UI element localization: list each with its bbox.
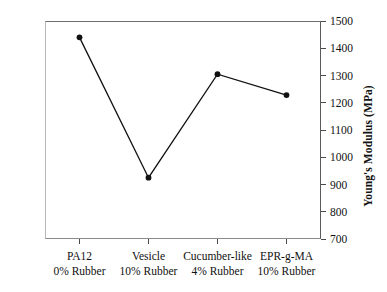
x-tick-label: PA120% Rubber	[53, 249, 105, 279]
x-tick-label: Cucumber-like4% Rubber	[183, 249, 252, 279]
y-tick-label: 900	[330, 177, 347, 193]
x-tick-label: Vesicle10% Rubber	[120, 249, 178, 279]
data-series-line	[45, 21, 321, 239]
y-tick-mark	[321, 75, 326, 76]
x-tick-mark	[217, 239, 218, 244]
y-tick-label: 1400	[330, 40, 353, 56]
y-tick-label: 1500	[330, 13, 353, 29]
y-tick-mark	[321, 102, 326, 103]
series-markers	[77, 34, 290, 180]
x-tick-mark	[79, 239, 80, 244]
x-tick-label-line1: Cucumber-like	[183, 250, 252, 262]
x-tick-mark	[148, 239, 149, 244]
y-tick-mark	[321, 184, 326, 185]
chart-figure: 150014001300120011001000900800700 Young'…	[0, 0, 387, 292]
y-tick-label: 800	[330, 204, 347, 220]
data-point-marker	[215, 71, 221, 77]
y-tick-mark	[321, 21, 326, 22]
data-point-marker	[146, 175, 152, 181]
x-tick-label-line2: 4% Rubber	[183, 264, 252, 279]
x-tick-label-line1: Vesicle	[132, 250, 165, 262]
x-tick-label-line2: 0% Rubber	[53, 264, 105, 279]
x-tick-label-line1: PA12	[67, 250, 92, 262]
series-polyline	[80, 37, 287, 177]
x-tick-label-line2: 10% Rubber	[120, 264, 178, 279]
x-tick-mark	[286, 239, 287, 244]
data-point-marker	[284, 92, 290, 98]
x-axis: PA120% RubberVesicle10% RubberCucumber-l…	[0, 239, 387, 292]
x-tick-label-line1: EPR-g-MA	[260, 250, 313, 262]
y-tick-mark	[321, 130, 326, 131]
y-tick-label: 1300	[330, 68, 353, 84]
y-tick-label: 1000	[330, 149, 353, 165]
y-tick-label: 1200	[330, 95, 353, 111]
x-tick-label: EPR-g-MA10% Rubber	[258, 249, 316, 279]
y-tick-mark	[321, 211, 326, 212]
y-axis-title-label: Young's Modulus (MPa)	[362, 85, 374, 207]
y-tick-mark	[321, 48, 326, 49]
y-tick-mark	[321, 157, 326, 158]
x-tick-label-line2: 10% Rubber	[258, 264, 316, 279]
y-tick-label: 1100	[330, 122, 353, 138]
data-point-marker	[77, 34, 83, 40]
